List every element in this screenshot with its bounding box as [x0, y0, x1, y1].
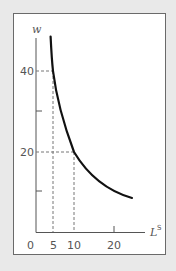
x-tick-label-0: 0	[27, 239, 34, 252]
x-axis-label-superscript: S	[157, 224, 162, 232]
x-tick-label-20: 20	[107, 239, 121, 252]
y-tick-label-20: 20	[20, 146, 34, 159]
chart-svg: w 40 20 0 5 10 20 L S	[0, 0, 176, 271]
dashed-guides	[36, 71, 74, 232]
supply-curve	[51, 37, 132, 199]
x-tick-label-5: 5	[50, 239, 57, 252]
x-tick-label-10: 10	[67, 239, 81, 252]
y-axis-label: w	[32, 23, 42, 36]
y-tick-label-40: 40	[20, 65, 34, 78]
